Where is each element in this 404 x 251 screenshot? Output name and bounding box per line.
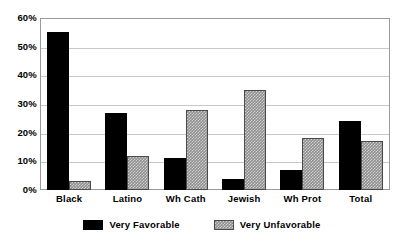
plot-area [40,18,390,190]
y-tick-label: 0% [1,185,37,195]
y-tick-label: 50% [1,42,37,52]
x-axis: Black Latino Wh Cath Jewish Wh Prot Tota… [40,192,390,208]
gridline-20 [41,134,389,135]
gridline-40 [41,76,389,77]
legend-swatch-icon-unfavorable [214,220,234,230]
y-tick-label: 40% [1,70,37,80]
x-tick-label-black: Black [40,192,98,208]
y-tick-label: 10% [1,156,37,166]
y-tick-label: 60% [1,13,37,23]
legend-item-very-favorable: Very Favorable [83,219,179,230]
x-tick-label-wh-cath: Wh Cath [157,192,215,208]
x-tick-label-latino: Latino [98,192,156,208]
gridline-10 [41,162,389,163]
x-tick-label-total: Total [332,192,390,208]
legend-label-favorable: Very Favorable [109,219,179,230]
gridline-50 [41,48,389,49]
y-axis: 60% 50% 40% 30% 20% 10% 0% [0,18,37,190]
x-tick-label-wh-prot: Wh Prot [273,192,331,208]
chart-legend: Very Favorable Very Unfavorable [0,219,404,230]
x-tick-label-jewish: Jewish [215,192,273,208]
gridline-30 [41,105,389,106]
legend-item-very-unfavorable: Very Unfavorable [214,219,321,230]
bar-chart: 60% 50% 40% 30% 20% 10% 0% [0,0,404,251]
legend-label-unfavorable: Very Unfavorable [240,219,321,230]
y-tick-label: 30% [1,99,37,109]
y-tick-label: 20% [1,128,37,138]
legend-swatch-icon-favorable [83,220,103,230]
